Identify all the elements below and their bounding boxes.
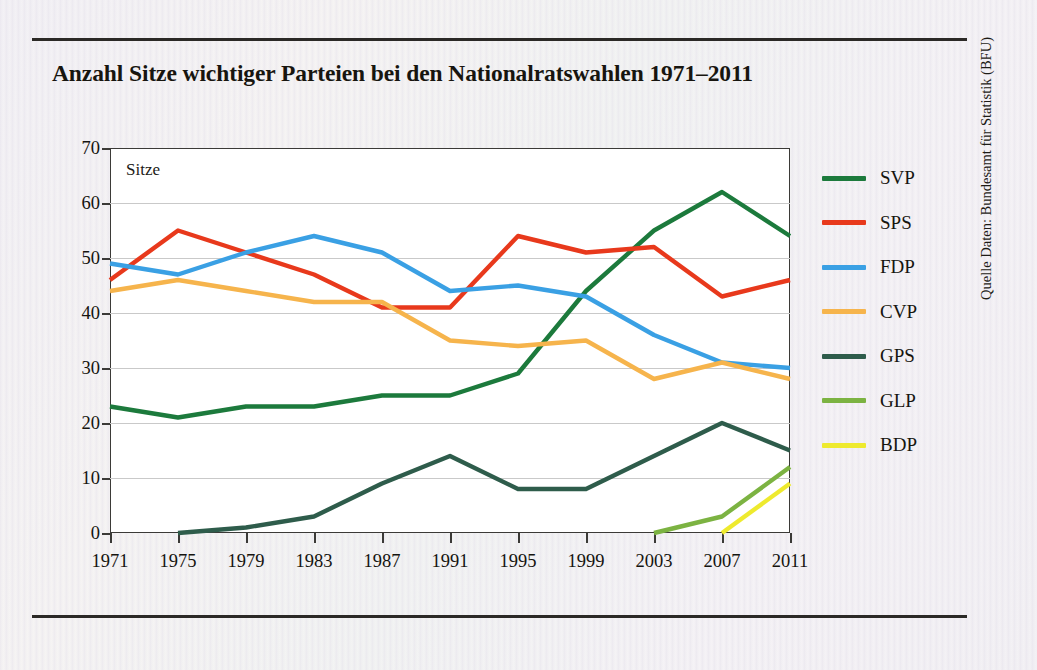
x-tick-label: 1991	[415, 551, 485, 572]
legend-label: SVP	[880, 167, 915, 189]
y-tick-mark	[102, 313, 110, 315]
legend-item-glp: GLP	[822, 379, 972, 424]
plot-area: 010203040506070 197119751979198319871991…	[110, 148, 790, 533]
x-tick-label: 1987	[347, 551, 417, 572]
legend-label: BDP	[880, 434, 917, 456]
y-tick-mark	[102, 423, 110, 425]
page-title: Anzahl Sitze wichtiger Parteien bei den …	[52, 60, 952, 87]
legend-swatch-icon	[822, 443, 866, 448]
y-tick-label: 60	[40, 193, 100, 214]
y-tick-label: 10	[40, 468, 100, 489]
x-tick-label: 1995	[483, 551, 553, 572]
title-rule-top	[32, 38, 967, 41]
legend-swatch-icon	[822, 354, 866, 359]
y-tick-label: 40	[40, 303, 100, 324]
x-tick-label: 1971	[75, 551, 145, 572]
y-tick-label: 50	[40, 248, 100, 269]
source-note: Quelle Daten: Bundesamt für Statistik (B…	[978, 37, 995, 300]
x-tick-label: 2011	[755, 551, 825, 572]
y-tick-mark	[102, 203, 110, 205]
y-tick-label: 0	[40, 523, 100, 544]
legend-label: SPS	[880, 212, 912, 234]
x-tick-label: 2003	[619, 551, 689, 572]
series-line-sps	[110, 231, 790, 308]
figure-rule-bottom	[32, 615, 967, 618]
legend-label: CVP	[880, 301, 917, 323]
legend-item-bdp: BDP	[822, 423, 972, 468]
legend-label: FDP	[880, 256, 915, 278]
x-tick-label: 1979	[211, 551, 281, 572]
x-tick-mark	[246, 533, 248, 543]
legend-item-svp: SVP	[822, 156, 972, 201]
y-tick-mark	[102, 368, 110, 370]
y-tick-mark	[102, 148, 110, 150]
legend-swatch-icon	[822, 309, 866, 314]
x-tick-label: 2007	[687, 551, 757, 572]
series-lines	[110, 148, 790, 533]
legend-swatch-icon	[822, 220, 866, 225]
legend-item-cvp: CVP	[822, 290, 972, 335]
legend-label: GPS	[880, 345, 915, 367]
y-tick-label: 70	[40, 138, 100, 159]
x-tick-mark	[518, 533, 520, 543]
legend-item-gps: GPS	[822, 334, 972, 379]
figure-frame: Anzahl Sitze wichtiger Parteien bei den …	[32, 38, 967, 618]
legend-swatch-icon	[822, 398, 866, 403]
x-tick-mark	[382, 533, 384, 543]
y-tick-mark	[102, 533, 110, 535]
x-tick-label: 1983	[279, 551, 349, 572]
x-tick-mark	[450, 533, 452, 543]
series-line-fdp	[110, 236, 790, 368]
legend: SVPSPSFDPCVPGPSGLPBDP	[822, 156, 972, 468]
y-tick-label: 30	[40, 358, 100, 379]
series-line-gps	[178, 423, 790, 533]
legend-swatch-icon	[822, 265, 866, 270]
y-tick-label: 20	[40, 413, 100, 434]
x-tick-label: 1975	[143, 551, 213, 572]
legend-swatch-icon	[822, 176, 866, 181]
y-tick-mark	[102, 478, 110, 480]
x-tick-mark	[586, 533, 588, 543]
x-tick-mark	[314, 533, 316, 543]
legend-item-sps: SPS	[822, 201, 972, 246]
legend-item-fdp: FDP	[822, 245, 972, 290]
y-tick-mark	[102, 258, 110, 260]
legend-label: GLP	[880, 390, 916, 412]
series-line-cvp	[110, 280, 790, 379]
x-tick-mark	[790, 533, 792, 543]
x-tick-mark	[110, 533, 112, 543]
x-tick-label: 1999	[551, 551, 621, 572]
